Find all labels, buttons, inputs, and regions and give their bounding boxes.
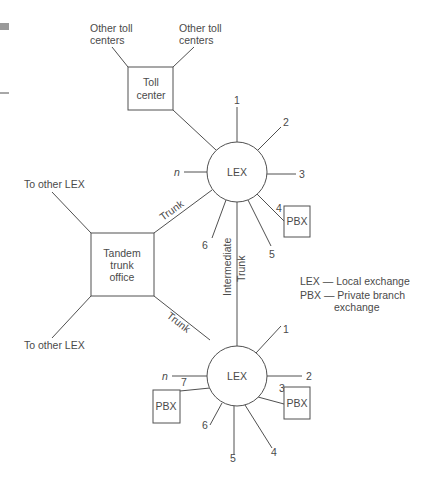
lex-top-line-4: 4 [276,202,282,214]
other-toll-right-1: Other toll [179,22,222,34]
lex-top-line-6: 6 [202,239,208,251]
other-toll-left-2: centers [90,34,124,46]
lex-bottom-label: LEX [227,370,247,382]
toll-link-left [112,47,128,67]
tandem-label-1: Tandem [103,247,141,259]
lex-top-line-5: 5 [269,248,275,260]
tandem-trunk-node: Tandem trunk office To other LEX To othe… [24,178,210,351]
lex-top-spokes [154,107,296,346]
trunk-top-label: Trunk [157,197,186,223]
tandem-label-2: trunk [110,259,134,271]
pbx-bottom-left-label: PBX [155,400,176,412]
lex-top-line-3: 3 [299,168,305,180]
lex-top-line-2: 2 [283,116,289,128]
other-toll-left-1: Other toll [90,22,133,34]
lex-bottom-line-2: 2 [306,370,312,382]
toll-center-label-2: center [136,89,166,101]
to-other-lex-top: To other LEX [24,178,85,190]
toll-center-label-1: Toll [143,76,159,88]
intermediate-label-1: Intermediate [221,237,233,296]
lex-bottom-line-4: 4 [271,446,277,458]
legend: LEX — Local exchange PBX — Private branc… [300,275,410,313]
to-other-lex-bottom: To other LEX [24,339,85,351]
intermediate-label-2: Trunk [235,255,247,282]
lex-bottom-line-5: 5 [230,452,236,464]
legend-pbx-1: PBX — Private branch [300,289,405,301]
toll-link-right [173,47,194,67]
lex-top-line-1: 1 [234,94,240,106]
pbx-bottom-right-label: PBX [286,397,307,409]
lex-bottom-line-7: 7 [181,376,187,388]
tandem-label-3: office [110,271,135,283]
margin-mark [0,23,9,30]
legend-pbx-2: exchange [334,301,380,313]
lex-top-label: LEX [227,166,247,178]
other-toll-right-2: centers [179,34,213,46]
lex-top-line-n: n [174,166,180,178]
legend-lex: LEX — Local exchange [300,275,410,287]
toll-to-lex-link [173,110,216,150]
lex-bottom-line-n: n [162,370,168,382]
pbx-top-label: PBX [286,215,307,227]
trunk-bottom-label: Trunk [165,309,194,335]
lex-bottom-line-6: 6 [202,419,208,431]
toll-center-node: Toll center Other toll centers Other tol… [90,22,222,150]
lex-bottom-line-1: 1 [283,323,289,335]
telephone-network-diagram: Toll center Other toll centers Other tol… [0,0,431,483]
